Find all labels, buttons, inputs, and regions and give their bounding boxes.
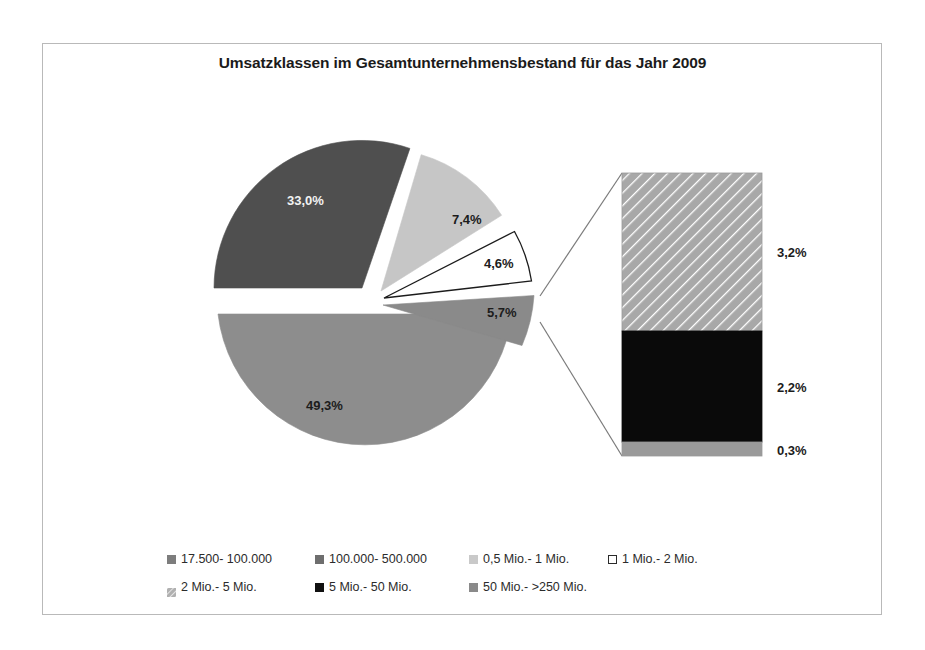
legend-item-5mio-50mio[interactable]: 5 Mio.- 50 Mio. bbox=[315, 576, 412, 598]
pie-slice-33-0 bbox=[214, 140, 410, 288]
bar-label-0-3: 0,3% bbox=[777, 443, 807, 458]
legend-item-17500-100000[interactable]: 17.500- 100.000 bbox=[167, 548, 272, 570]
legend-swatch-hatch-icon bbox=[167, 583, 176, 592]
legend-item-100000-500000[interactable]: 100.000- 500.000 bbox=[315, 548, 427, 570]
legend-label: 5 Mio.- 50 Mio. bbox=[329, 580, 412, 594]
legend-item-2mio-5mio[interactable]: 2 Mio.- 5 Mio. bbox=[167, 576, 257, 598]
stacked-bar bbox=[622, 173, 762, 456]
pie-slice-49-3 bbox=[218, 314, 512, 445]
legend-item-1mio-2mio[interactable]: 1 Mio.- 2 Mio. bbox=[608, 548, 698, 570]
legend-swatch-solid-icon bbox=[469, 555, 478, 564]
legend-label: 2 Mio.- 5 Mio. bbox=[181, 580, 257, 594]
legend-swatch-solid-icon bbox=[315, 555, 324, 564]
bar-segment-0-3 bbox=[622, 442, 762, 456]
pie-label-5-7: 5,7% bbox=[487, 305, 517, 320]
pie-label-33-0: 33,0% bbox=[287, 193, 324, 208]
legend-swatch-outline-icon bbox=[608, 555, 617, 564]
legend-row-2: 2 Mio.- 5 Mio. 5 Mio.- 50 Mio. 50 Mio.- … bbox=[42, 576, 882, 598]
legend-label: 50 Mio.- >250 Mio. bbox=[483, 580, 587, 594]
legend-swatch-solid-icon bbox=[167, 555, 176, 564]
legend-label: 17.500- 100.000 bbox=[181, 552, 272, 566]
legend-swatch-solid-icon bbox=[315, 583, 324, 592]
legend-label: 100.000- 500.000 bbox=[329, 552, 427, 566]
pie-label-7-4: 7,4% bbox=[452, 212, 482, 227]
legend-label: 1 Mio.- 2 Mio. bbox=[622, 552, 698, 566]
bar-of-pie-connectors bbox=[540, 173, 622, 456]
bar-label-2-2: 2,2% bbox=[777, 380, 807, 395]
pie-label-49-3: 49,3% bbox=[306, 398, 343, 413]
legend-label: 0,5 Mio.- 1 Mio. bbox=[483, 552, 569, 566]
chart-container: Umsatzklassen im Gesamtunternehmensbesta… bbox=[0, 0, 925, 650]
legend-item-05mio-1mio[interactable]: 0,5 Mio.- 1 Mio. bbox=[469, 548, 569, 570]
legend-swatch-solid-icon bbox=[469, 583, 478, 592]
legend-row-1: 17.500- 100.000 100.000- 500.000 0,5 Mio… bbox=[42, 548, 882, 570]
bar-segment-3-2 bbox=[622, 173, 762, 331]
legend-item-50mio-250mio[interactable]: 50 Mio.- >250 Mio. bbox=[469, 576, 587, 598]
pie-slices bbox=[214, 140, 534, 444]
bar-segment-2-2 bbox=[622, 331, 762, 442]
pie-label-4-6: 4,6% bbox=[484, 256, 514, 271]
bar-label-3-2: 3,2% bbox=[777, 245, 807, 260]
